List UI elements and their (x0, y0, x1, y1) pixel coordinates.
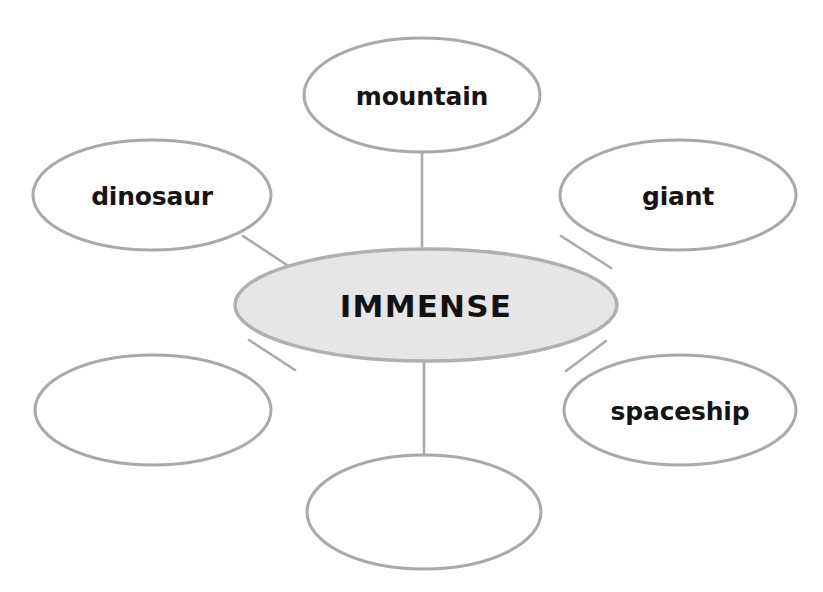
satellite-node-ellipse-blank-bottom[interactable] (307, 455, 541, 569)
satellite-node-ellipse-blank-lower-left[interactable] (35, 355, 271, 465)
satellite-node-label-giant: giant (642, 182, 714, 211)
connector-line-center-to-giant (561, 236, 611, 268)
satellite-node-label-dinosaur: dinosaur (91, 182, 214, 211)
connector-line-center-to-spaceship (566, 341, 606, 371)
node-ellipses-group: IMMENSEmountaindinosaurgiantspaceship (33, 38, 796, 569)
word-web-diagram: IMMENSEmountaindinosaurgiantspaceship (0, 0, 823, 592)
center-node-label: IMMENSE (340, 288, 512, 324)
word-web-canvas: IMMENSEmountaindinosaurgiantspaceship (0, 0, 823, 592)
satellite-node-label-spaceship: spaceship (611, 397, 750, 426)
satellite-node-label-mountain: mountain (356, 82, 488, 111)
